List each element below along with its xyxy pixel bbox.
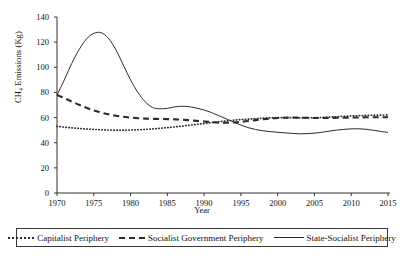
y-tick-label: 100 [23,63,49,72]
legend-item[interactable]: Capitalist Periphery [3,233,114,243]
dashed-line-swatch-icon [119,237,145,239]
legend-item[interactable]: State-Socialist Periphery [269,233,401,243]
legend-item-label: State-Socialist Periphery [307,233,396,243]
x-tick-label: 1990 [184,199,224,208]
y-tick-label: 120 [23,38,49,47]
axes [57,17,390,193]
x-tick-label: 1975 [74,199,114,208]
legend-item[interactable]: Socialist Government Periphery [114,233,268,243]
plot-area [0,0,404,210]
x-tick-label: 1970 [37,199,77,208]
y-tick-label: 0 [23,189,49,198]
series-line-dashed [57,95,388,123]
chart-legend: Capitalist PeripherySocialist Government… [16,228,388,247]
data-series-group [57,32,388,134]
y-axis-title: CH₄ Emissions (Kg) [13,7,23,127]
solid-line-swatch-icon [274,237,304,238]
y-tick-label: 60 [23,114,49,123]
y-tick-label: 80 [23,88,49,97]
x-tick-label: 1980 [111,199,151,208]
x-tick-label: 2000 [258,199,298,208]
legend-item-label: Socialist Government Periphery [148,233,263,243]
dotted-line-swatch-icon [8,237,34,239]
legend-item-label: Capitalist Periphery [37,233,109,243]
x-tick-label: 1995 [221,199,261,208]
y-tick-label: 140 [23,13,49,22]
y-tick-label: 20 [23,164,49,173]
x-tick-label: 1985 [147,199,187,208]
x-tick-label: 2005 [294,199,334,208]
chart-figure: CH₄ Emissions (Kg) Year 0204060801001201… [0,0,404,258]
y-tick-label: 40 [23,139,49,148]
x-tick-label: 2015 [368,199,404,208]
x-tick-label: 2010 [331,199,371,208]
